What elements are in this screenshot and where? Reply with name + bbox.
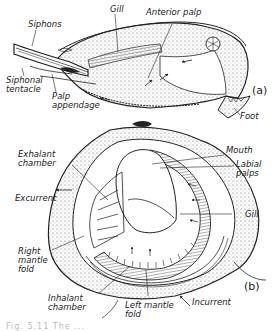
label-right-mantle-fold: Right mantle fold xyxy=(18,247,48,274)
figure-caption: Fig. 5.11 The ... xyxy=(6,322,85,331)
label-anterior-palp: Anterior palp xyxy=(146,8,201,17)
label-mouth: Mouth xyxy=(226,146,253,155)
label-inhalant-chamber: Inhalant chamber xyxy=(48,294,86,312)
panel-a-tag: (a) xyxy=(252,84,267,97)
panel-a-drawing xyxy=(14,14,250,118)
label-exhalant-chamber: Exhalant chamber xyxy=(18,150,56,168)
label-excurrent: Excurrent xyxy=(15,194,56,203)
label-left-mantle-fold: Left mantle fold xyxy=(125,301,174,319)
label-foot: Foot xyxy=(240,112,259,121)
label-palp-appendage: Palp appendage xyxy=(52,92,100,110)
label-gill-b: Gill xyxy=(245,210,259,219)
label-incurrent: Incurrent xyxy=(192,298,231,307)
label-labial-palps: Labial palps xyxy=(236,160,261,178)
label-gill-a: Gill xyxy=(110,5,124,14)
label-siphons: Siphons xyxy=(28,20,62,29)
panel-b-tag: (b) xyxy=(244,280,260,293)
label-siphonal-tentacle: Siphonal tentacle xyxy=(6,76,43,94)
